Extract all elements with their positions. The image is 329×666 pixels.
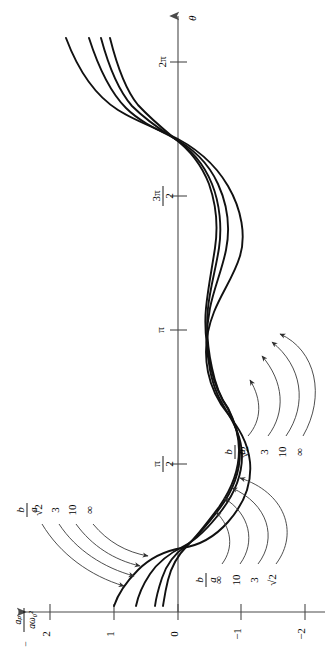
theta-tick-pi: π [154,327,166,333]
label-left-3: 3 [49,507,61,513]
theta-tick-pi-2: π 2 [150,456,175,472]
label-group-lower-right: b a ∞ 10 3 √2 [193,478,287,587]
label-upper-infinity: ∞ [293,448,305,456]
acc-axis-label-denominator: aω₀² [27,611,37,629]
acc-tick-neg1: −1 [231,628,243,640]
acceleration-tick-labels: 2 1 0 −1 −2 [40,628,307,640]
label-group-lower-left: b a √2 3 10 ∞ [14,503,148,586]
acc-tick-neg2: −2 [295,628,307,640]
acceleration-axis-label: aₚ aω₀² − [13,608,37,647]
acc-tick-2: 2 [40,631,52,637]
theta-axis [170,16,187,612]
figure-canvas: θ 2π 3π 2 π π 2 2 1 0 −1 −2 aₚ aω₀² − [0,0,329,666]
theta-tick-3pi-2: 3π 2 [150,186,175,206]
theta-tick-2pi-label: 2π [156,56,168,68]
label-lowright-3: 3 [248,577,260,583]
theta-axis-label: θ [186,15,198,21]
label-upper-sqrt2: √2 [238,446,250,458]
label-bo-a-lowright-numerator: b [193,577,205,583]
label-lowright-10: 10 [230,574,242,586]
acc-axis-label-numerator: aₚ [13,615,23,625]
acc-tick-0: 0 [168,631,180,637]
label-left-sqrt2: √2 [32,504,44,516]
curve-3 [89,38,242,606]
label-bo-a-upper-numerator: b [222,449,234,455]
label-bo-a-left-numerator: b [14,507,26,513]
acc-tick-1: 1 [104,631,116,637]
curve-infinity [110,38,239,606]
acceleration-axis [18,604,325,620]
curve-10 [101,38,240,606]
theta-axis-label-text: θ [186,15,198,21]
theta-tick-2pi: 2π [156,56,168,68]
theta-tick-pi-2-denominator: 2 [163,461,175,467]
label-upper-3: 3 [258,449,270,455]
label-group-upper-right: b a √2 3 10 ∞ [222,334,315,459]
label-upper-10: 10 [276,446,288,458]
label-left-10: 10 [66,504,78,516]
label-lowright-sqrt2: √2 [266,574,278,586]
acc-axis-label-sign: − [21,641,31,646]
theta-tick-3pi-2-denominator: 2 [163,193,175,199]
theta-tick-pi-label: π [154,327,166,333]
theta-tick-3pi-2-numerator: 3π [150,190,162,202]
label-left-infinity: ∞ [83,506,95,514]
theta-tick-pi-2-numerator: π [150,461,162,467]
label-lowright-infinity: ∞ [212,576,224,584]
